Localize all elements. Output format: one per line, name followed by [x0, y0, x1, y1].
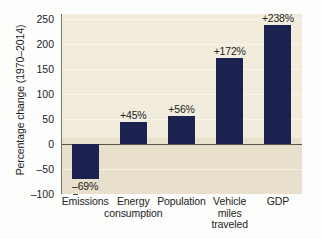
x-category-label-line: traveled: [191, 219, 269, 231]
y-tick-label: –50: [18, 164, 54, 174]
bar: [168, 116, 195, 144]
y-tick-label: 100: [18, 89, 54, 99]
y-tick-label: 200: [18, 39, 54, 49]
y-tick-label: 50: [18, 114, 54, 124]
y-tick-label: 250: [18, 14, 54, 24]
bar-value-label: +238%: [248, 12, 308, 24]
y-tick-label: 150: [18, 64, 54, 74]
bar: [264, 25, 291, 144]
y-tick-label: 0: [18, 139, 54, 149]
bar-value-label: +56%: [152, 103, 212, 115]
bar: [120, 122, 147, 145]
figure-bar-chart: Percentage change (1970–2014) 2502001501…: [0, 0, 321, 239]
bar-value-label: –69%: [55, 180, 115, 192]
bar-value-label: +172%: [200, 45, 260, 57]
x-category-label-line: GDP: [239, 196, 317, 208]
bar: [216, 58, 243, 144]
x-category-label: GDP: [239, 196, 317, 208]
x-category-label-line: consumption: [94, 208, 172, 220]
x-axis-category-labels: EmissionsEnergyconsumptionPopulationVehi…: [61, 196, 302, 239]
y-axis-spine: [61, 14, 62, 194]
bar: [72, 144, 99, 179]
